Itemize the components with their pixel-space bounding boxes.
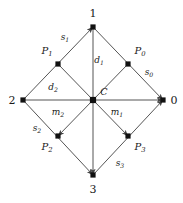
node-center-C	[90, 97, 96, 103]
midpoint-label-P2: P2	[41, 142, 52, 153]
vertex-label-2: 2	[9, 95, 16, 106]
edge-label-d2: d2	[48, 83, 58, 93]
node-vertex-0	[160, 97, 165, 102]
edge-label-s0: s0	[145, 68, 154, 78]
vertex-label-0: 0	[171, 95, 178, 106]
node-vertex-3	[90, 172, 95, 177]
center-label-C: C	[100, 87, 107, 97]
node-vertex-2	[20, 97, 25, 102]
lattice-diagram: 1 2 0 3 P1 P0 P2 P3 C s1 s0 s2 s3 d1 d2 …	[0, 0, 183, 203]
node-midpoint-P1	[55, 61, 60, 66]
midpoint-label-P3: P3	[134, 142, 145, 153]
edge-label-d1: d1	[94, 56, 104, 66]
edge-label-s1: s1	[61, 33, 70, 43]
edge-label-m1: m1	[111, 108, 123, 118]
node-vertex-1	[90, 24, 95, 29]
midpoint-label-P1: P1	[41, 46, 52, 57]
vertex-label-3: 3	[90, 184, 97, 195]
midpoint-label-P0: P0	[134, 46, 145, 57]
edge-label-s3: s3	[116, 159, 125, 169]
node-midpoint-P0	[125, 61, 130, 66]
edge-label-m2: m2	[52, 108, 64, 118]
diagram-canvas	[0, 0, 183, 203]
node-midpoint-P2	[55, 133, 60, 138]
node-midpoint-P3	[125, 133, 130, 138]
vertex-label-1: 1	[90, 8, 97, 19]
edge-label-s2: s2	[33, 124, 42, 134]
